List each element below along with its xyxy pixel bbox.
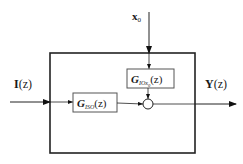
summing-point [143, 99, 153, 109]
g-iso-subscript: ISO [84, 104, 95, 110]
g-iso-arg: (z) [94, 97, 107, 110]
g-iso-to-sum [117, 103, 143, 104]
g-iox0-arg: (z) [150, 73, 163, 86]
g-iox0-subscript: IOx [138, 80, 148, 86]
block-diagram: GIOx0(z) GISO(z) I(z) Y(z) x0 [0, 0, 243, 164]
x0-label: x0 [132, 10, 142, 24]
g-iso-symbol: G [77, 97, 85, 109]
g-iox0-symbol: G [131, 73, 139, 85]
output-label: Y(z) [205, 77, 227, 91]
input-label: I(z) [14, 77, 32, 91]
